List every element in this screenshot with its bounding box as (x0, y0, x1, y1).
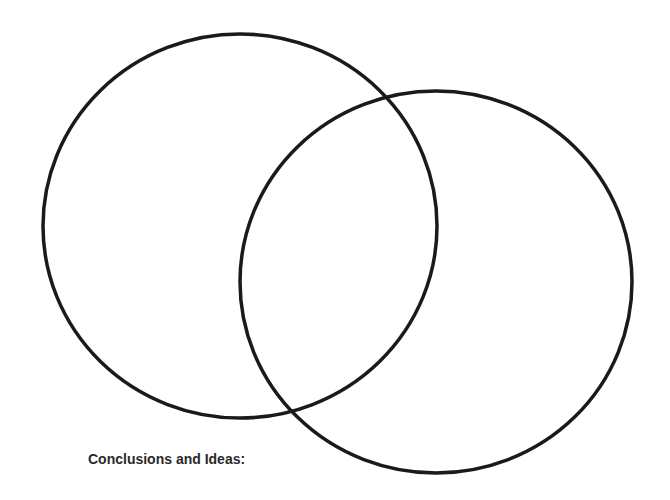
venn-diagram (0, 0, 670, 500)
conclusions-label: Conclusions and Ideas: (88, 451, 245, 467)
venn-circle-right (240, 91, 632, 473)
venn-circle-left (43, 34, 437, 418)
